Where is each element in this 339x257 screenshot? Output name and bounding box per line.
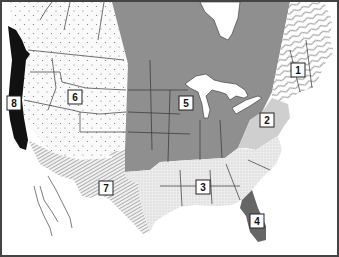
region-label-1: 1 [291, 63, 305, 77]
svg-text:3: 3 [200, 182, 206, 193]
svg-text:4: 4 [254, 216, 260, 227]
region-label-3: 3 [196, 180, 210, 194]
svg-text:1: 1 [295, 65, 301, 76]
region-label-7: 7 [99, 181, 113, 195]
svg-text:6: 6 [72, 92, 78, 103]
svg-text:8: 8 [11, 98, 17, 109]
svg-text:2: 2 [264, 115, 270, 126]
svg-text:5: 5 [183, 98, 189, 109]
region-label-4: 4 [250, 214, 264, 228]
svg-text:7: 7 [103, 183, 109, 194]
region-label-6: 6 [68, 90, 82, 104]
region-label-5: 5 [179, 96, 193, 110]
region-map: 1 2 3 4 5 6 7 8 [0, 0, 339, 257]
region-label-8: 8 [7, 96, 21, 110]
region-label-2: 2 [260, 113, 274, 127]
